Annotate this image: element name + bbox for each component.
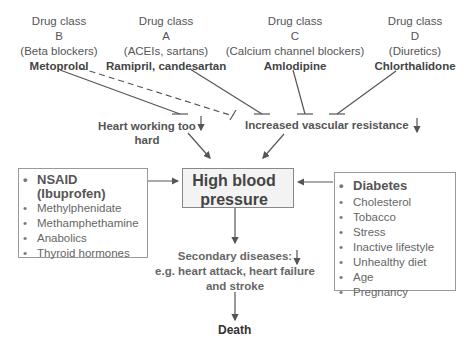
list-item: Methamphethamine bbox=[19, 216, 147, 231]
heart-working-label: Heart working too hard bbox=[97, 119, 197, 147]
high-blood-pressure-box: High blood pressure bbox=[182, 168, 294, 208]
hbp-line1: High blood bbox=[183, 171, 285, 190]
list-item-nsaid: NSAID(Ibuprofen) bbox=[19, 173, 147, 201]
heart-working-line1: Heart working too bbox=[97, 119, 197, 133]
secondary-line2: e.g. heart attack, heart failure bbox=[150, 264, 320, 279]
list-item: Inactive lifestyle bbox=[335, 240, 455, 255]
list-item-diabetes: Diabetes bbox=[335, 176, 455, 195]
list-item: Thyroid hormones bbox=[19, 246, 147, 261]
list-item: Cholesterol bbox=[335, 195, 455, 210]
secondary-line1: Secondary diseases: bbox=[150, 249, 320, 264]
left-risk-list: NSAID(Ibuprofen) Methylphenidate Methamp… bbox=[19, 173, 147, 261]
list-item: Anabolics bbox=[19, 231, 147, 246]
list-item: Stress bbox=[335, 225, 455, 240]
vascular-resistance-label: Increased vascular resistance bbox=[245, 119, 409, 131]
secondary-line3: and stroke bbox=[150, 279, 320, 294]
hbp-line2: pressure bbox=[183, 190, 285, 209]
inhibit-line-amlodipine-vascular bbox=[293, 70, 305, 114]
list-item: Age bbox=[335, 270, 455, 285]
inhibit-line-metoprolol-vascular-dashed bbox=[80, 68, 233, 116]
list-item: Unhealthy diet bbox=[335, 255, 455, 270]
right-risk-list: Diabetes Cholesterol Tobacco Stress Inac… bbox=[335, 176, 455, 300]
inhibit-line-metoprolol-heart bbox=[60, 70, 180, 114]
right-risk-box: Diabetes Cholesterol Tobacco Stress Inac… bbox=[334, 172, 456, 291]
inhibit-line-chlorthalidone-vascular bbox=[337, 71, 396, 114]
heart-working-line2: hard bbox=[97, 133, 197, 147]
list-item: Pregnancy bbox=[335, 285, 455, 300]
arrow-vascular-to-hbp bbox=[263, 134, 284, 158]
list-item: Methylphenidate bbox=[19, 201, 147, 216]
secondary-diseases-label: Secondary diseases: e.g. heart attack, h… bbox=[150, 249, 320, 294]
list-item: Tobacco bbox=[335, 210, 455, 225]
death-label: Death bbox=[218, 323, 251, 337]
inhibit-bar-dashed bbox=[230, 110, 236, 120]
left-risk-box: NSAID(Ibuprofen) Methylphenidate Methamp… bbox=[18, 168, 148, 258]
inhibit-line-ramipril-vascular bbox=[190, 69, 262, 114]
